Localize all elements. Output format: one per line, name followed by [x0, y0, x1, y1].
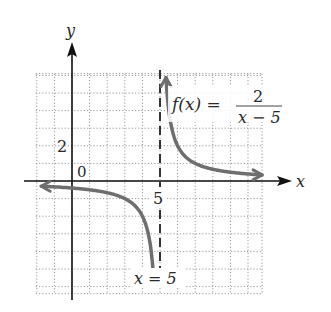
- x-tick-label-5: 5: [153, 189, 163, 208]
- asymptote-label: x = 5: [134, 269, 177, 288]
- axes: [24, 42, 292, 300]
- y-axis-label: y: [65, 21, 76, 40]
- function-lhs: f(x) =: [170, 94, 221, 114]
- function-label: f(x) = 2 x − 5: [168, 86, 286, 127]
- origin-label: 0: [77, 163, 87, 181]
- x-axis-label: x: [296, 172, 305, 191]
- function-numerator: 2: [253, 87, 263, 106]
- y-tick-label-2: 2: [57, 137, 67, 156]
- rational-function-graph: y x 0 2 5 f(x) = 2 x − 5 x = 5: [0, 0, 331, 312]
- function-denominator: x − 5: [238, 108, 281, 127]
